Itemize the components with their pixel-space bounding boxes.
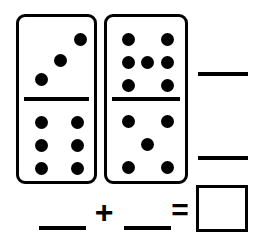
pip bbox=[35, 116, 48, 129]
pip bbox=[54, 54, 67, 67]
answer-value bbox=[199, 188, 245, 229]
domino-right-bottom-half bbox=[107, 99, 185, 181]
addend-2-blank[interactable] bbox=[124, 226, 171, 230]
pip bbox=[122, 161, 135, 174]
pip bbox=[122, 79, 135, 92]
pip bbox=[71, 162, 84, 175]
pip bbox=[122, 115, 135, 128]
pip bbox=[141, 56, 154, 69]
equals-icon: = bbox=[166, 195, 194, 225]
domino-left-bottom-half bbox=[19, 99, 94, 181]
pip bbox=[71, 116, 84, 129]
pip bbox=[71, 139, 84, 152]
addend-1-blank[interactable] bbox=[39, 226, 86, 230]
pip bbox=[161, 33, 174, 46]
pip bbox=[161, 161, 174, 174]
pip bbox=[161, 79, 174, 92]
plus-icon: + bbox=[90, 196, 118, 228]
pip bbox=[35, 162, 48, 175]
side-answer-rule-bottom[interactable] bbox=[198, 156, 248, 160]
pip bbox=[74, 33, 87, 46]
pip bbox=[161, 56, 174, 69]
pip bbox=[122, 33, 135, 46]
domino-left-top-half bbox=[19, 17, 94, 99]
side-answer-rule-top[interactable] bbox=[198, 72, 248, 76]
domino-addition-worksheet: + = bbox=[0, 0, 260, 240]
pip bbox=[122, 56, 135, 69]
pip bbox=[35, 73, 48, 86]
pip bbox=[161, 115, 174, 128]
domino-right[interactable] bbox=[104, 14, 188, 184]
domino-right-top-half bbox=[107, 17, 185, 99]
pip bbox=[141, 138, 154, 151]
answer-box[interactable] bbox=[196, 185, 248, 232]
pip bbox=[35, 139, 48, 152]
domino-left[interactable] bbox=[16, 14, 97, 184]
